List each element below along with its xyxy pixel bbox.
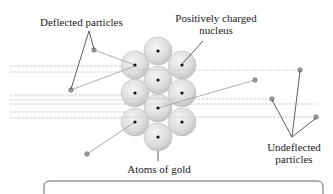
alpha-beams: [10, 66, 125, 118]
gold-atoms: [121, 37, 196, 151]
label-nucleus-line2: nucleus: [168, 24, 264, 36]
label-undeflected-particles: Undeflected particles: [262, 141, 326, 165]
label-undeflected-line2: particles: [262, 153, 326, 165]
label-deflected-particles: Deflected particles: [40, 16, 123, 28]
label-undeflected-line1: Undeflected: [262, 141, 326, 153]
caption-box: [44, 181, 323, 194]
label-nucleus-line1: Positively charged: [168, 12, 264, 24]
label-atoms-of-gold: Atoms of gold: [124, 163, 194, 175]
label-nucleus: Positively charged nucleus: [168, 12, 264, 36]
